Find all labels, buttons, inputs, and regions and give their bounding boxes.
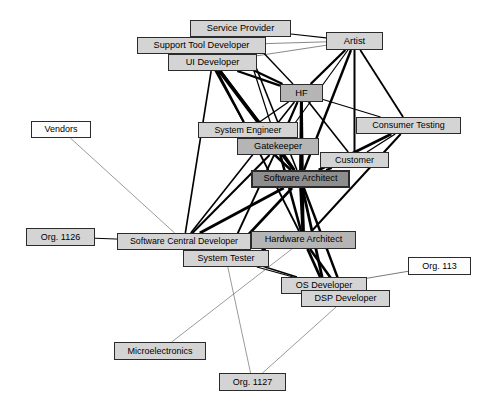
node-label-artist: Artist xyxy=(344,36,365,45)
node-ui_developer[interactable]: UI Developer xyxy=(168,54,257,71)
node-label-gatekeeper: Gatekeeper xyxy=(254,141,302,150)
node-label-hf: HF xyxy=(295,88,308,97)
node-support_tool_dev[interactable]: Support Tool Developer xyxy=(137,37,266,54)
node-label-os_developer: OS Developer xyxy=(296,281,353,290)
node-microelectronics[interactable]: Microelectronics xyxy=(114,342,206,360)
node-org_1127[interactable]: Org. 1127 xyxy=(219,373,286,391)
node-label-customer: Customer xyxy=(335,155,374,164)
node-label-org_1127: Org. 1127 xyxy=(233,377,272,386)
node-consumer_testing[interactable]: Consumer Testing xyxy=(356,117,461,134)
node-org_1126[interactable]: Org. 1126 xyxy=(26,228,95,246)
node-label-microelectronics: Microelectronics xyxy=(127,346,192,355)
node-org_113[interactable]: Org. 113 xyxy=(408,257,471,275)
node-gatekeeper[interactable]: Gatekeeper xyxy=(237,138,319,155)
node-label-system_engineer: System Engineer xyxy=(215,125,282,134)
node-label-system_tester: System Tester xyxy=(198,254,255,263)
node-dsp_developer[interactable]: DSP Developer xyxy=(301,290,390,307)
node-layer: Service ProviderSupport Tool DeveloperAr… xyxy=(0,0,495,410)
node-hf[interactable]: HF xyxy=(280,84,323,102)
node-label-software_architect: Software Architect xyxy=(263,174,337,183)
node-software_architect[interactable]: Software Architect xyxy=(251,170,350,188)
node-sw_central_dev[interactable]: Software Central Developer xyxy=(117,233,251,250)
node-customer[interactable]: Customer xyxy=(320,152,389,168)
node-system_tester[interactable]: System Tester xyxy=(183,250,269,267)
node-label-consumer_testing: Consumer Testing xyxy=(372,121,444,130)
node-hardware_architect[interactable]: Hardware Architect xyxy=(251,231,356,249)
node-label-org_1126: Org. 1126 xyxy=(41,232,80,241)
node-service_provider[interactable]: Service Provider xyxy=(190,20,291,37)
node-vendors[interactable]: Vendors xyxy=(31,121,91,138)
node-system_engineer[interactable]: System Engineer xyxy=(198,122,298,138)
node-artist[interactable]: Artist xyxy=(326,32,383,50)
node-label-support_tool_dev: Support Tool Developer xyxy=(154,40,250,49)
node-label-org_113: Org. 113 xyxy=(422,261,456,270)
node-label-vendors: Vendors xyxy=(44,125,77,134)
node-label-hardware_architect: Hardware Architect xyxy=(265,235,343,244)
node-label-service_provider: Service Provider xyxy=(207,23,274,32)
node-label-ui_developer: UI Developer xyxy=(186,57,240,66)
node-label-dsp_developer: DSP Developer xyxy=(315,294,377,303)
node-label-sw_central_dev: Software Central Developer xyxy=(130,237,238,246)
network-diagram-canvas: Service ProviderSupport Tool DeveloperAr… xyxy=(0,0,495,410)
